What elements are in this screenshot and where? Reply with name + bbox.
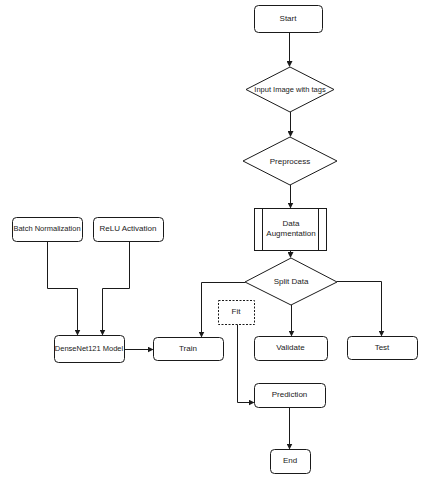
input-image-label: Input Image with tags xyxy=(246,80,334,99)
edge-batchnorm-densenet xyxy=(48,242,78,335)
start-label: Start xyxy=(254,5,322,32)
edge-relu-densenet xyxy=(103,242,130,335)
relu-activation-label: ReLU Activation xyxy=(93,217,163,241)
test-label: Test xyxy=(347,336,417,359)
train-label: Train xyxy=(153,337,223,360)
end-label: End xyxy=(270,449,310,473)
edge-split-test xyxy=(337,282,382,336)
prediction-label: Prediction xyxy=(254,383,325,407)
preprocess-label: Preprocess xyxy=(243,152,337,171)
validate-label: Validate xyxy=(254,336,327,360)
densenet-model-label: DenseNet121 Model xyxy=(54,335,124,362)
batch-normalization-label: Batch Normalization xyxy=(12,217,82,241)
split-data-label: Split Data xyxy=(245,272,337,291)
edge-fit-prediction xyxy=(238,325,254,403)
fit-label: Fit xyxy=(218,300,254,324)
data-augmentation-label: Data Augmentation xyxy=(264,208,318,250)
